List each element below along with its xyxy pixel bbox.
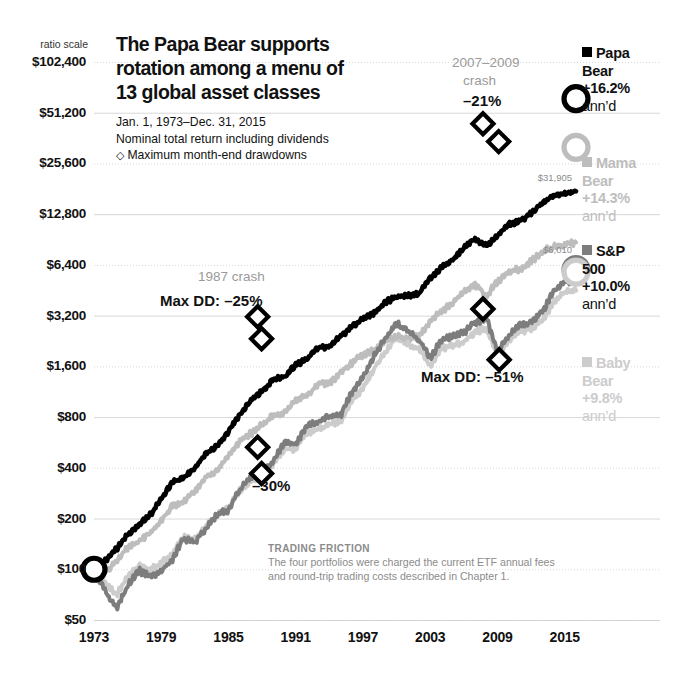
ratio-scale-label: ratio scale xyxy=(8,38,88,50)
chart-page: ratio scale $102,400$51,200$25,600$12,80… xyxy=(0,0,691,679)
subtitle-date-range: Jan. 1, 1973–Dec. 31, 2015 xyxy=(116,114,416,131)
legend-mama-swatch-icon xyxy=(582,157,592,167)
legend-mama-name-line2: Bear xyxy=(582,173,690,191)
drawdown-legend-row: ◇ Maximum month-end drawdowns xyxy=(116,147,416,164)
title-line-2: rotation among a menu of xyxy=(116,56,386,80)
y-axis-tick-200: $200 xyxy=(0,511,86,526)
legend-baby-row1: Baby xyxy=(582,355,690,373)
y-axis-tick-102400: $102,400 xyxy=(0,54,86,69)
x-axis-tick-1979: 1979 xyxy=(131,629,191,645)
y-axis-tick-1600: $1,600 xyxy=(0,358,86,373)
y-axis-tick-50: $50 xyxy=(0,612,86,627)
papa-dd-2008-trough-diamond-icon xyxy=(488,131,509,152)
trading-friction-line-1: The four portfolios were charged the cur… xyxy=(268,556,568,570)
trading-friction-line-2: and round-trip trading costs described i… xyxy=(268,570,568,584)
sp500-end-value: $6,010 xyxy=(512,244,572,255)
title-line-3: 13 global asset classes xyxy=(116,80,386,104)
endpoint-marker-papa-bear-start xyxy=(83,558,105,580)
legend-mama-row1: Mama xyxy=(582,155,690,173)
page-title: The Papa Bear supports rotation among a … xyxy=(116,32,386,104)
papa-dd-1987-peak-diamond-icon xyxy=(247,306,268,327)
legend-sp500-annualized-label: ann’d xyxy=(582,296,690,314)
legend-papa-name-line2: Bear xyxy=(582,63,690,81)
trading-friction-note: TRADING FRICTION The four portfolios wer… xyxy=(268,543,568,583)
y-axis-tick-25600: $25,600 xyxy=(0,155,86,170)
legend-sp500-row1: S&P xyxy=(582,243,690,261)
legend-sp500-name-line2: 500 xyxy=(582,261,690,279)
legend-papa-row1: Papa xyxy=(582,45,690,63)
y-axis-tick-800: $800 xyxy=(0,409,86,424)
legend-sp500-return: +10.0% xyxy=(582,278,690,296)
legend-baby-annualized-label: ann’d xyxy=(582,408,690,426)
papa-2007-dd-label: –21% xyxy=(463,92,501,109)
legend-papa-name-line1: Papa xyxy=(596,45,629,61)
page-subtitle: Jan. 1, 1973–Dec. 31, 2015 Nominal total… xyxy=(116,114,416,164)
y-axis-tick-100: $100 xyxy=(0,561,86,576)
legend-mama-return: +14.3% xyxy=(582,190,690,208)
y-axis-tick-400: $400 xyxy=(0,460,86,475)
crash-2007-label-line1: 2007–2009 xyxy=(452,55,520,70)
legend-baby-name-line2: Bear xyxy=(582,373,690,391)
x-axis-tick-2003: 2003 xyxy=(400,629,460,645)
x-axis-tick-2009: 2009 xyxy=(468,629,528,645)
crash-2007-label-line2: crash xyxy=(463,73,496,88)
legend-baby-return: +9.8% xyxy=(582,390,690,408)
subtitle-return-basis: Nominal total return including dividends xyxy=(116,131,416,148)
trading-friction-heading: TRADING FRICTION xyxy=(268,543,568,554)
legend-papa-annualized-label: ann’d xyxy=(582,98,690,116)
crash-1987-label: 1987 crash xyxy=(198,269,265,284)
sp500-maxdd-label: Max DD: –51% xyxy=(421,368,524,385)
legend-mama-name-line1: Mama xyxy=(596,155,636,171)
y-axis-tick-3200: $3,200 xyxy=(0,308,86,323)
x-axis-tick-1991: 1991 xyxy=(266,629,326,645)
diamond-icon: ◇ xyxy=(116,149,124,161)
legend-item-sp500[interactable]: S&P500+10.0%ann’d xyxy=(582,243,690,313)
legend-baby-name-line1: Baby xyxy=(596,355,630,371)
legend-papa-return: +16.2% xyxy=(582,80,690,98)
sp500-dd-1987-peak-diamond-icon xyxy=(247,437,268,458)
y-axis-tick-12800: $12,800 xyxy=(0,206,86,221)
papa-dd-2008-peak-diamond-icon xyxy=(472,113,493,134)
legend-sp500-swatch-icon xyxy=(582,245,592,255)
sp500-1987-dd-label: –30% xyxy=(252,477,290,494)
x-axis-tick-1997: 1997 xyxy=(333,629,393,645)
legend-mama-annualized-label: ann’d xyxy=(582,208,690,226)
drawdown-legend-label: Maximum month-end drawdowns xyxy=(127,148,307,162)
papa-dd-1987-trough-diamond-icon xyxy=(251,328,272,349)
x-axis-tick-1985: 1985 xyxy=(199,629,259,645)
trading-friction-body: The four portfolios were charged the cur… xyxy=(268,556,568,583)
mama-end-value: $31,905 xyxy=(512,172,572,183)
y-axis-tick-6400: $6,400 xyxy=(0,257,86,272)
papa-maxdd-label: Max DD: –25% xyxy=(160,292,263,309)
x-axis-tick-1973: 1973 xyxy=(64,629,124,645)
title-line-1: The Papa Bear supports xyxy=(116,32,386,56)
legend-item-baby[interactable]: BabyBear+9.8%ann’d xyxy=(582,355,690,425)
series-mama-bear xyxy=(94,240,576,574)
legend-sp500-name-line1: S&P xyxy=(596,243,625,259)
legend-item-mama[interactable]: MamaBear+14.3%ann’d xyxy=(582,155,690,225)
legend-papa-swatch-icon xyxy=(582,47,592,57)
x-axis-tick-2015: 2015 xyxy=(535,629,595,645)
legend-baby-swatch-icon xyxy=(582,357,592,367)
legend-item-papa[interactable]: PapaBear+16.2%ann’d xyxy=(582,45,690,115)
y-axis-tick-51200: $51,200 xyxy=(0,105,86,120)
